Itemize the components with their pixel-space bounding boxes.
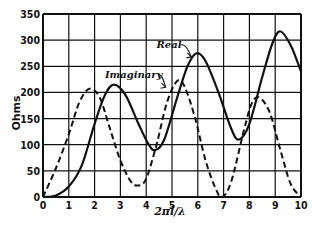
annotation-real: Real: [156, 39, 182, 50]
y-axis-label: Ohms: [10, 95, 23, 131]
impedance-chart: 050100150200250300350 012345678910 RealI…: [0, 0, 312, 231]
x-tick-label: 2: [91, 199, 98, 211]
x-tick-label: 6: [195, 199, 202, 211]
x-tick-label: 7: [220, 199, 227, 211]
y-tick-label: 250: [20, 60, 40, 72]
y-tick-label: 150: [20, 113, 40, 125]
y-tick-label: 350: [20, 8, 40, 20]
x-tick-label: 1: [66, 199, 73, 211]
x-axis-label: 2πl/λ: [153, 205, 186, 218]
x-tick-label: 10: [294, 199, 308, 211]
y-tick-label: 100: [20, 139, 40, 151]
x-tick-label: 9: [272, 199, 279, 211]
y-tick-label: 50: [27, 165, 41, 177]
x-tick-label: 3: [117, 199, 124, 211]
y-axis-ticks: 050100150200250300350: [20, 8, 40, 203]
x-tick-label: 0: [40, 199, 47, 211]
y-tick-label: 300: [20, 34, 40, 46]
x-tick-label: 4: [143, 199, 150, 211]
x-tick-label: 8: [246, 199, 253, 211]
y-tick-label: 200: [20, 86, 40, 98]
annotation-imaginary: Imaginary: [104, 69, 164, 80]
